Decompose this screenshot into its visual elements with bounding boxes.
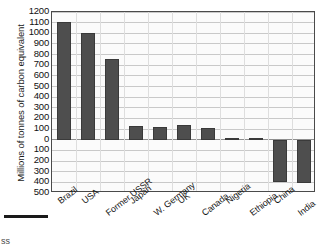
gridline xyxy=(52,12,314,13)
bar xyxy=(129,126,143,140)
vertical-gridline xyxy=(220,12,221,191)
y-tick-label: 300 xyxy=(14,102,49,112)
gridline xyxy=(52,22,314,23)
vertical-gridline xyxy=(292,12,293,191)
y-tick-label: 100 xyxy=(14,144,49,154)
bar xyxy=(177,125,191,139)
vertical-gridline xyxy=(196,12,197,191)
bar xyxy=(105,59,119,139)
y-tick-label: 500 xyxy=(14,187,49,197)
y-tick-label: 800 xyxy=(14,49,49,59)
y-tick-label: 200 xyxy=(14,112,49,122)
footer-caption-fragment: ss xyxy=(1,236,10,246)
vertical-gridline xyxy=(172,12,173,191)
y-tick-label: 400 xyxy=(14,91,49,101)
bar xyxy=(201,128,215,140)
y-tick-label: 1000 xyxy=(14,27,49,37)
vertical-gridline xyxy=(124,12,125,191)
footer-rule xyxy=(4,215,48,218)
plot-area xyxy=(51,11,315,192)
vertical-gridline xyxy=(244,12,245,191)
y-tick-label: 1200 xyxy=(14,6,49,16)
vertical-gridline xyxy=(100,12,101,191)
x-tick-label: UK xyxy=(176,190,192,205)
bar xyxy=(297,140,311,183)
y-tick-label: 0 xyxy=(14,134,49,144)
y-tick-label: 700 xyxy=(14,59,49,69)
x-tick-label: Canada xyxy=(200,191,231,218)
y-tick-label: 100 xyxy=(14,123,49,133)
x-tick-label: India xyxy=(296,198,317,218)
bar-chart-figure: Millions of tonnes of carbon equivalent … xyxy=(0,0,329,252)
y-tick-label: 1100 xyxy=(14,17,49,27)
x-tick-label: Ethiopia xyxy=(248,191,279,218)
y-tick-label: 200 xyxy=(14,155,49,165)
bar xyxy=(57,22,71,140)
y-tick-label: 300 xyxy=(14,166,49,176)
bar xyxy=(249,138,263,140)
vertical-gridline xyxy=(148,12,149,191)
bar xyxy=(153,127,167,140)
y-tick-label: 600 xyxy=(14,70,49,80)
y-tick-label: 500 xyxy=(14,81,49,91)
y-tick-label: 400 xyxy=(14,176,49,186)
y-tick-label: 900 xyxy=(14,38,49,48)
bar xyxy=(81,33,95,139)
vertical-gridline xyxy=(268,12,269,191)
vertical-gridline xyxy=(76,12,77,191)
bar xyxy=(273,140,287,183)
bar xyxy=(225,138,239,140)
